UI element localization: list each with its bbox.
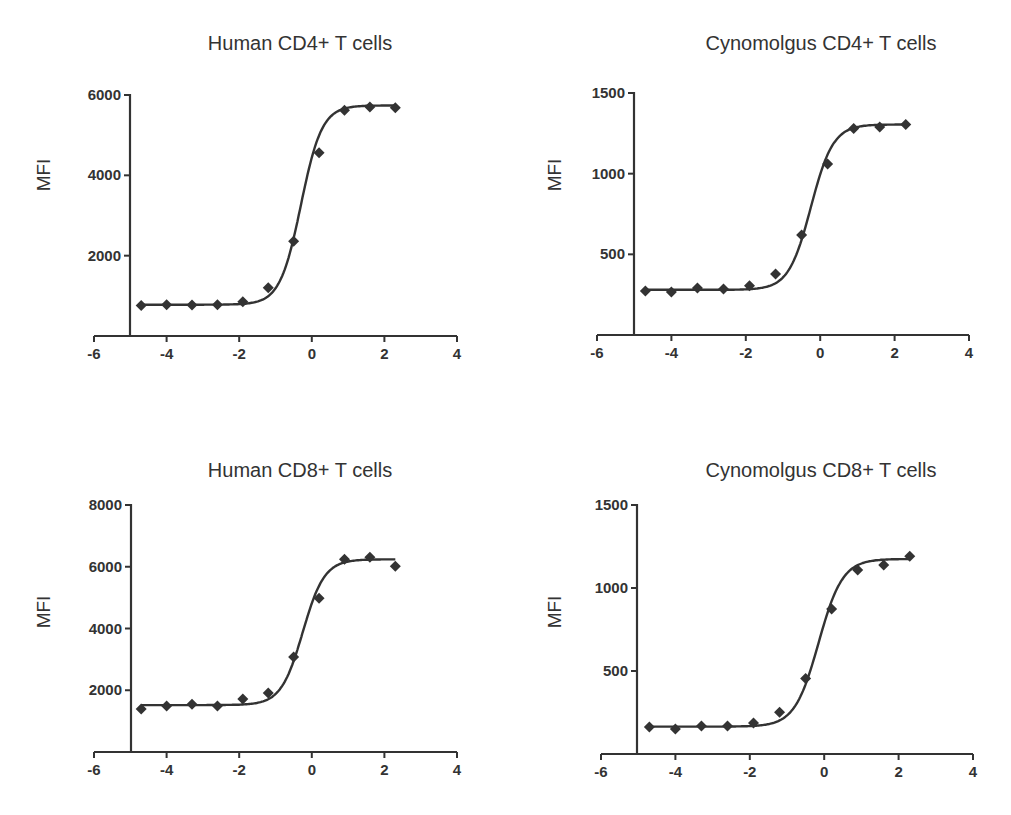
diamond-marker — [640, 285, 651, 296]
y-tick-label: 500 — [600, 245, 625, 262]
diamond-marker — [212, 299, 223, 310]
diamond-marker — [878, 560, 889, 571]
plot-3: -6-4-202450010001500 — [594, 496, 978, 780]
diamond-marker — [237, 693, 248, 704]
diamond-marker — [900, 119, 911, 130]
diamond-marker — [770, 269, 781, 280]
plots-canvas: -6-4-2024200040006000-6-4-20245001000150… — [0, 0, 1011, 815]
diamond-marker — [774, 707, 785, 718]
y-tick-label: 6000 — [88, 86, 121, 103]
diamond-marker — [364, 552, 375, 563]
y-tick-label: 2000 — [88, 247, 121, 264]
diamond-marker — [670, 724, 681, 735]
x-tick-label: 2 — [894, 763, 902, 780]
y-tick-label: 4000 — [88, 166, 121, 183]
x-tick-label: 0 — [308, 761, 316, 778]
x-tick-label: -4 — [669, 763, 683, 780]
diamond-marker — [161, 299, 172, 310]
fit-curve — [645, 125, 905, 290]
diamond-marker — [237, 296, 248, 307]
y-tick-label: 2000 — [89, 681, 122, 698]
x-tick-label: -4 — [665, 344, 679, 361]
x-tick-label: -2 — [233, 761, 246, 778]
x-tick-label: -6 — [590, 344, 603, 361]
x-tick-label: 4 — [453, 761, 462, 778]
diamond-marker — [212, 700, 223, 711]
x-tick-label: -4 — [160, 345, 174, 362]
x-tick-label: -2 — [743, 763, 756, 780]
x-tick-label: 2 — [890, 344, 898, 361]
y-tick-label: 500 — [603, 662, 628, 679]
diamond-marker — [718, 284, 729, 295]
y-tick-label: 1000 — [595, 579, 628, 596]
plot-1: -6-4-202450010001500 — [590, 84, 974, 361]
fit-curve — [141, 106, 395, 305]
x-tick-label: -6 — [594, 763, 607, 780]
diamond-marker — [390, 102, 401, 113]
diamond-marker — [136, 300, 147, 311]
x-tick-label: -6 — [87, 345, 100, 362]
x-tick-label: 0 — [816, 344, 824, 361]
x-tick-label: 4 — [969, 763, 978, 780]
y-tick-label: 6000 — [89, 558, 122, 575]
diamond-marker — [666, 286, 677, 297]
diamond-marker — [644, 722, 655, 733]
x-tick-label: -4 — [160, 761, 174, 778]
fit-curve — [141, 559, 395, 705]
diamond-marker — [161, 700, 172, 711]
y-tick-label: 1500 — [595, 496, 628, 513]
diamond-marker — [288, 236, 299, 247]
y-tick-label: 8000 — [89, 496, 122, 513]
diamond-marker — [390, 561, 401, 572]
diamond-marker — [364, 102, 375, 113]
x-tick-label: -2 — [739, 344, 752, 361]
x-tick-label: -2 — [233, 345, 246, 362]
diamond-marker — [822, 158, 833, 169]
plot-0: -6-4-2024200040006000 — [87, 86, 462, 362]
y-tick-label: 1500 — [592, 84, 625, 101]
x-tick-label: 4 — [965, 344, 974, 361]
y-tick-label: 1000 — [592, 165, 625, 182]
x-tick-label: 0 — [308, 345, 316, 362]
y-tick-label: 4000 — [89, 620, 122, 637]
diamond-marker — [722, 721, 733, 732]
x-tick-label: 0 — [820, 763, 828, 780]
diamond-marker — [187, 300, 198, 311]
x-tick-label: 2 — [380, 761, 388, 778]
diamond-marker — [187, 699, 198, 710]
plot-2: -6-4-20242000400060008000 — [87, 496, 462, 778]
x-tick-label: 2 — [380, 345, 388, 362]
diamond-marker — [848, 123, 859, 134]
x-tick-label: 4 — [453, 345, 462, 362]
diamond-marker — [696, 721, 707, 732]
diamond-marker — [692, 283, 703, 294]
diamond-marker — [874, 121, 885, 132]
x-tick-label: -6 — [87, 761, 100, 778]
fit-curve — [649, 559, 909, 727]
